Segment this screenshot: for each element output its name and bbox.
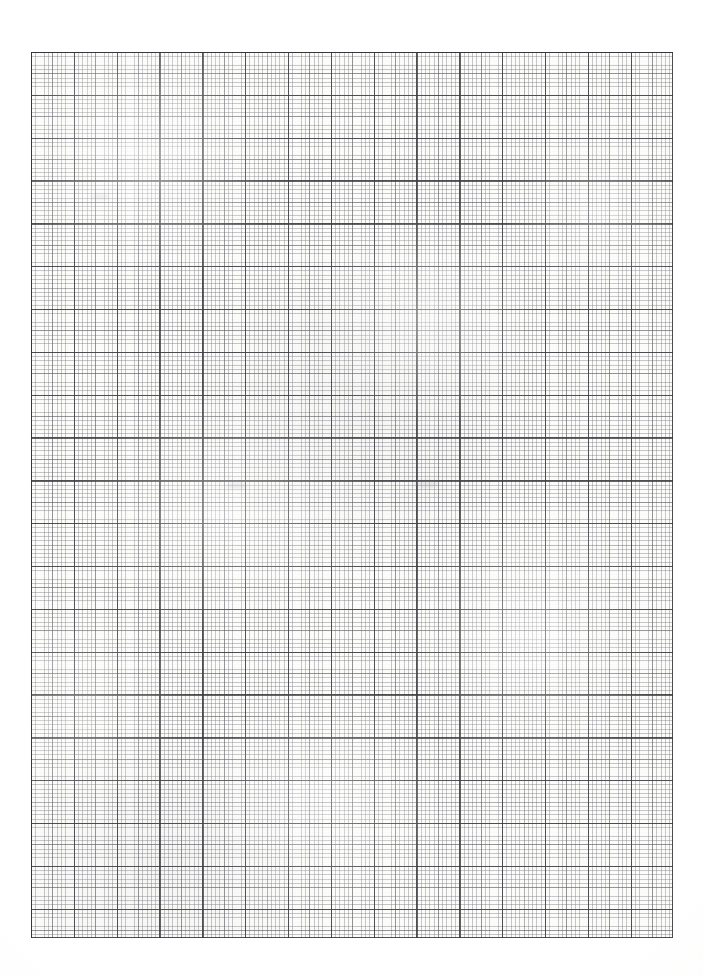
document-description: Scanned sheet of blank cross-section gra… [0,0,1,1]
margin-right [673,52,703,938]
grid-ruling-lines [31,52,673,938]
graph-grid-area [31,52,673,938]
margin-bottom [0,938,703,975]
graph-paper-page: Blank graph paper sheet Scanned sheet of… [0,0,703,975]
document-title: Blank graph paper sheet [0,0,1,1]
margin-top [0,0,703,52]
margin-left [0,52,31,938]
